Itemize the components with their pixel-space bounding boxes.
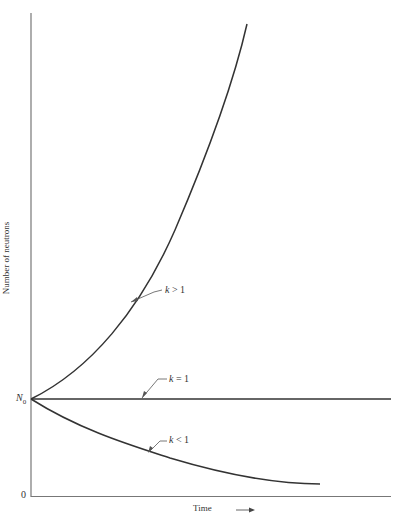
k-op: = 1 xyxy=(173,373,189,384)
k-op: < 1 xyxy=(173,434,189,445)
arrowhead-k-equal-1 xyxy=(142,391,147,398)
leader-k-equal-1 xyxy=(142,379,167,398)
y-tick-zero: 0 xyxy=(21,489,26,500)
k-op: > 1 xyxy=(169,284,185,295)
series-k-greater-1 xyxy=(31,24,247,399)
annotation-k-greater-1: k > 1 xyxy=(165,284,185,295)
n0-subscript: 0 xyxy=(23,398,27,406)
y-tick-n0: N0 xyxy=(16,392,26,406)
zero-text: 0 xyxy=(21,489,26,500)
annotation-k-less-1: k < 1 xyxy=(169,434,189,445)
leader-k-less-1 xyxy=(149,441,167,452)
n0-symbol: N xyxy=(16,392,23,403)
chart-canvas xyxy=(0,0,403,523)
x-axis-label: Time xyxy=(193,503,212,513)
time-text: Time xyxy=(193,503,212,513)
y-axis-label: Number of neutrons xyxy=(1,222,11,294)
annotation-k-equal-1: k = 1 xyxy=(169,373,189,384)
time-arrow-head xyxy=(249,508,255,513)
